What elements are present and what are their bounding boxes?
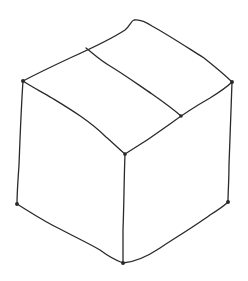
vertex-dot-top-left <box>22 80 25 83</box>
front-vertical-edge <box>123 154 125 263</box>
vertex-dot-top-right <box>231 81 234 84</box>
vertex-dot-bottom-front <box>122 262 125 265</box>
vertex-dot-front-top <box>124 153 126 155</box>
drawing-canvas: Hand-drawn sketch of a closed cardboard … <box>0 0 248 281</box>
left-face-left-edge <box>17 81 23 204</box>
vertex-dot-bottom-left <box>16 203 19 206</box>
vertex-dot-seam-end <box>180 115 182 117</box>
right-face-right-edge <box>228 82 232 202</box>
cardboard-box-sketch <box>0 0 248 281</box>
top-face-front-right-edge <box>125 82 232 154</box>
top-face-back-left-edge <box>23 20 232 82</box>
left-face-bottom-edge <box>17 204 123 263</box>
right-face-bottom-edge <box>123 202 228 263</box>
flap-seam-line <box>86 48 181 116</box>
top-face-front-left-edge <box>23 81 125 154</box>
vertex-dot-bottom-right <box>227 201 230 204</box>
